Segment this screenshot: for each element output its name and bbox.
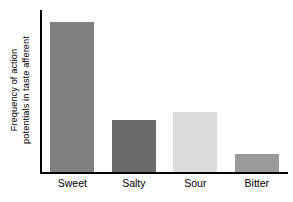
bar-salty[interactable] xyxy=(112,120,156,173)
y-axis-label: Frequency of action potentials in taste … xyxy=(0,0,40,180)
x-tick-label-sweet: Sweet xyxy=(42,176,102,190)
x-tick-label-sour: Sour xyxy=(165,176,225,190)
y-axis-label-line-1: Frequency of action xyxy=(9,36,21,144)
x-axis-tick-labels: Sweet Salty Sour Bitter xyxy=(42,176,288,196)
y-axis-label-text: Frequency of action potentials in taste … xyxy=(9,36,32,144)
plot-area xyxy=(42,10,288,172)
x-tick-label-bitter: Bitter xyxy=(227,176,287,190)
bar-chart-figure: Frequency of action potentials in taste … xyxy=(0,0,293,202)
bar-sweet[interactable] xyxy=(50,22,94,172)
y-axis-label-line-2: potentials in taste afferent xyxy=(20,36,32,144)
x-tick-label-salty: Salty xyxy=(104,176,164,190)
bar-bitter[interactable] xyxy=(235,154,279,172)
x-axis-line xyxy=(40,172,288,174)
bar-sour[interactable] xyxy=(173,112,217,172)
